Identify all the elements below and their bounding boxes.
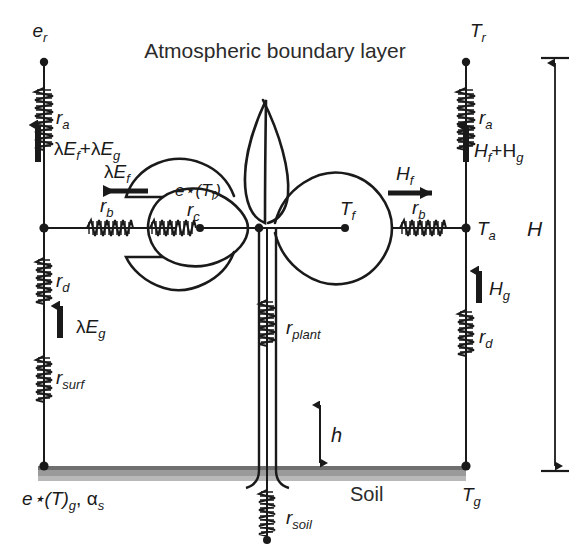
label-lambdaEg: λEg xyxy=(76,316,106,341)
horizontal-wire-right xyxy=(392,220,466,236)
label-rd-left: rd xyxy=(56,270,70,295)
label-H: H xyxy=(527,217,543,240)
node-reference-vapour-pressure xyxy=(40,58,48,66)
label-rb-left: rb xyxy=(100,195,114,220)
label-Hf: Hf xyxy=(396,163,415,188)
label-rsurf: rsurf xyxy=(56,367,85,392)
resistor-rc-stomatal xyxy=(150,220,196,236)
label-Hf-plus-Hg: Hf+Hg xyxy=(474,140,524,165)
label-Tr: Tr xyxy=(470,20,487,45)
label-estar-Tf: e⋆(Tf) xyxy=(175,181,221,203)
label-lambdaEf: λEf xyxy=(104,161,131,186)
label-rd-right: rd xyxy=(479,326,493,351)
left-vapour-branch xyxy=(35,58,53,471)
label-Tg: Tg xyxy=(462,484,482,509)
label-lambdaEf-plus-lambdaEg: λEf+λEg xyxy=(54,138,121,163)
node-reference-temperature xyxy=(462,58,470,66)
label-h: h xyxy=(331,424,342,446)
dimension-H xyxy=(541,58,569,471)
label-Ta: Ta xyxy=(477,218,496,243)
label-er: er xyxy=(33,20,49,45)
soil-vegetation-atmosphere-resistance-network: Atmospheric boundary layer er ra rd rsur… xyxy=(0,0,587,552)
right-temperature-branch xyxy=(457,58,475,471)
node-ground-vapour xyxy=(39,461,48,470)
label-ra-left: ra xyxy=(56,107,70,132)
soil-surface-band xyxy=(38,466,466,481)
label-rc: rc xyxy=(187,199,200,224)
label-ra-right: ra xyxy=(479,107,493,132)
node-soil-water-terminal xyxy=(263,536,271,544)
label-rb-right: rb xyxy=(412,197,426,222)
label-Hg: Hg xyxy=(489,278,511,303)
label-rplant: rplant xyxy=(286,317,322,342)
figure-canvas: Atmospheric boundary layer er ra rd rsur… xyxy=(0,0,587,552)
label-estar-Tg-alpha-s: e⋆(T)g, αs xyxy=(22,488,105,513)
label-Tf: Tf xyxy=(340,198,357,223)
node-ground-temperature xyxy=(461,461,470,470)
label-soil: Soil xyxy=(350,483,383,505)
label-rsoil: rsoil xyxy=(286,507,313,532)
figure-title: Atmospheric boundary layer xyxy=(144,39,405,62)
